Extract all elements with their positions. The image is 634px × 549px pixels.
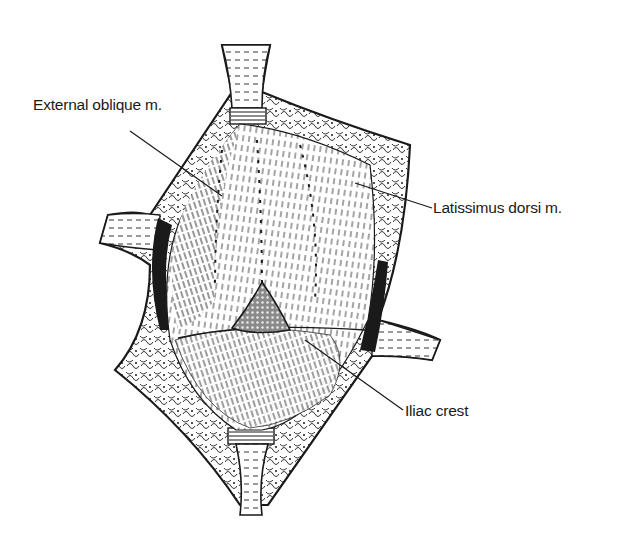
- label-iliac-crest: Iliac crest: [405, 402, 468, 420]
- label-external-oblique: External oblique m.: [33, 96, 162, 114]
- label-latissimus-dorsi: Latissimus dorsi m.: [433, 199, 562, 217]
- anatomical-illustration: External oblique m. Latissimus dorsi m. …: [0, 0, 634, 549]
- illustration-drawing: [0, 0, 634, 549]
